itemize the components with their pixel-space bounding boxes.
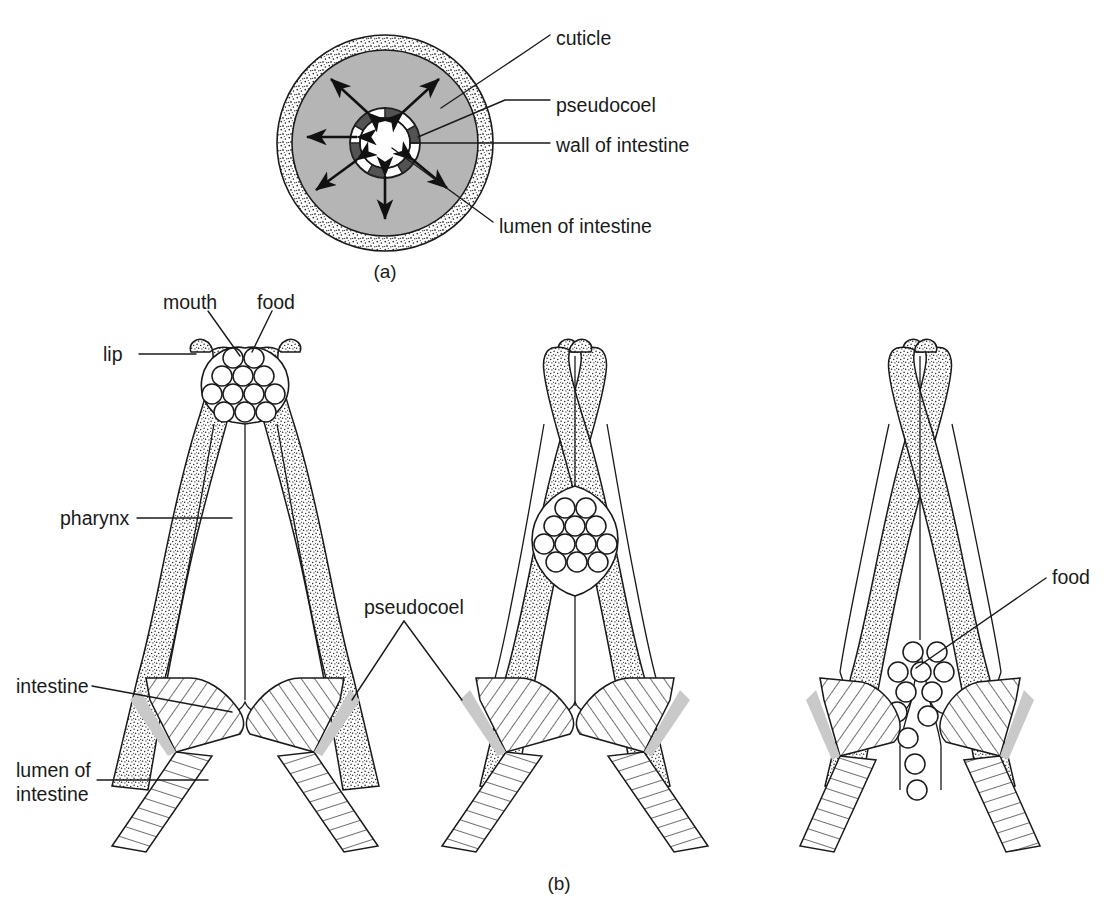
label-lumen-of-intestine-a: lumen of intestine (499, 215, 652, 237)
stage-1-mouth-open (112, 339, 379, 852)
caption-a: (a) (373, 261, 396, 282)
label-wall-of-intestine: wall of intestine (555, 134, 689, 156)
panel-a-cross-section: cuticle pseudocoel wall of intestine lum… (277, 27, 689, 282)
label-intestine-second-line: intestine (16, 783, 89, 805)
label-food-top: food (257, 291, 295, 313)
stage3-intestine-tube-right (964, 756, 1040, 852)
stage-3-food-into-intestine (800, 339, 1040, 852)
label-mouth: mouth (163, 291, 217, 313)
caption-b: (b) (547, 873, 570, 894)
label-intestine: intestine (16, 675, 89, 697)
label-lip: lip (103, 343, 123, 365)
label-food-right: food (1052, 566, 1090, 588)
lumen-region (361, 119, 409, 167)
label-pseudocoel-b: pseudocoel (364, 596, 464, 618)
stage-2-bolus-mid-pharynx (442, 339, 708, 852)
label-lumen-of: lumen of (16, 759, 91, 781)
label-pharynx: pharynx (60, 507, 130, 529)
nematode-figure: cuticle pseudocoel wall of intestine lum… (0, 0, 1118, 914)
figure-root: cuticle pseudocoel wall of intestine lum… (0, 0, 1118, 914)
stage3-intestine-tube-left (800, 756, 876, 852)
label-cuticle: cuticle (556, 27, 611, 49)
label-pseudocoel-a: pseudocoel (556, 94, 656, 116)
